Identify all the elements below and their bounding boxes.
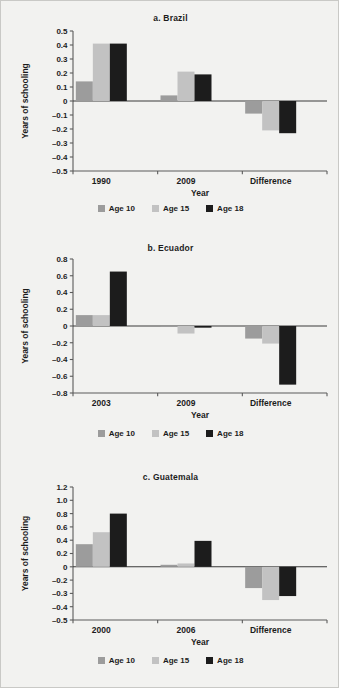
- legend-guatemala: Age 10 Age 15 Age 18: [1, 656, 339, 665]
- svg-text:–0.3: –0.3: [52, 589, 68, 598]
- svg-text:–0.2: –0.2: [52, 576, 68, 585]
- svg-text:–0.2: –0.2: [52, 125, 68, 134]
- svg-text:Years of schooling: Years of schooling: [20, 288, 30, 364]
- svg-text:–0.6: –0.6: [52, 372, 68, 381]
- legend-item-age-10: Age 10: [98, 204, 135, 213]
- legend-label-age-15: Age 15: [163, 656, 189, 665]
- svg-text:Year: Year: [191, 410, 210, 420]
- svg-text:2000: 2000: [92, 625, 111, 635]
- svg-text:Years of schooling: Years of schooling: [20, 63, 30, 139]
- legend-item-age-15: Age 15: [152, 656, 189, 665]
- legend-swatch-age-18: [206, 657, 213, 664]
- svg-text:0.8: 0.8: [56, 510, 68, 519]
- svg-text:0: 0: [63, 563, 68, 572]
- legend-swatch-age-15: [152, 657, 159, 664]
- svg-text:–0.8: –0.8: [52, 389, 68, 398]
- svg-text:0: 0: [63, 322, 68, 331]
- legend-item-age-10: Age 10: [98, 656, 135, 665]
- legend-swatch-age-10: [98, 657, 105, 664]
- legend-label-age-18: Age 18: [217, 429, 243, 438]
- svg-text:0.1: 0.1: [56, 83, 68, 92]
- legend-label-age-10: Age 10: [109, 204, 135, 213]
- svg-text:–0.5: –0.5: [52, 616, 68, 625]
- panel-title-ecuador: b. Ecuador: [1, 243, 339, 253]
- svg-text:0.4: 0.4: [56, 41, 68, 50]
- legend-swatch-age-18: [206, 205, 213, 212]
- svg-text:–0.5: –0.5: [52, 167, 68, 176]
- legend-item-age-18: Age 18: [206, 204, 243, 213]
- svg-text:Years of schooling: Years of schooling: [20, 516, 30, 592]
- svg-text:0.4: 0.4: [56, 288, 68, 297]
- svg-text:0.2: 0.2: [56, 305, 68, 314]
- svg-text:–0.4: –0.4: [52, 603, 68, 612]
- panel-title-guatemala: c. Guatemala: [1, 472, 339, 482]
- legend-label-age-10: Age 10: [109, 656, 135, 665]
- legend-label-age-15: Age 15: [163, 204, 189, 213]
- svg-text:–0.3: –0.3: [52, 139, 68, 148]
- legend-swatch-age-10: [98, 205, 105, 212]
- svg-text:2009: 2009: [177, 398, 196, 408]
- svg-text:Difference: Difference: [250, 176, 292, 186]
- figure-container: a. Brazil 0.50.40.30.20.10–0.1–0.2–0.3–0…: [0, 0, 339, 688]
- legend-label-age-15: Age 15: [163, 429, 189, 438]
- svg-text:0.2: 0.2: [56, 549, 68, 558]
- svg-text:1990: 1990: [92, 176, 111, 186]
- svg-text:0: 0: [63, 97, 68, 106]
- svg-text:1.2: 1.2: [56, 483, 68, 492]
- legend-swatch-age-10: [98, 430, 105, 437]
- svg-text:–0.2: –0.2: [52, 339, 68, 348]
- legend-label-age-10: Age 10: [109, 429, 135, 438]
- svg-text:1.0: 1.0: [56, 496, 68, 505]
- svg-text:0.8: 0.8: [56, 255, 68, 264]
- svg-text:Year: Year: [191, 188, 210, 198]
- chart-panel-ecuador: b. Ecuador 0.80.60.40.20–0.2–0.4–0.6–0.8…: [1, 233, 339, 456]
- legend-item-age-10: Age 10: [98, 429, 135, 438]
- svg-text:–0.4: –0.4: [52, 153, 68, 162]
- svg-text:2009: 2009: [177, 176, 196, 186]
- legend-swatch-age-18: [206, 430, 213, 437]
- svg-text:0.5: 0.5: [56, 27, 68, 36]
- legend-item-age-15: Age 15: [152, 204, 189, 213]
- legend-item-age-18: Age 18: [206, 429, 243, 438]
- svg-text:Difference: Difference: [250, 398, 292, 408]
- svg-text:0.3: 0.3: [56, 55, 68, 64]
- svg-text:2003: 2003: [92, 398, 111, 408]
- plot-area-ecuador: 0.80.60.40.20–0.2–0.4–0.6–0.820032009Dif…: [1, 233, 339, 426]
- svg-text:0.6: 0.6: [56, 523, 68, 532]
- chart-panel-guatemala: c. Guatemala 1.21.00.80.60.40.20–0.2–0.3…: [1, 456, 339, 687]
- svg-text:–0.1: –0.1: [52, 111, 68, 120]
- legend-label-age-18: Age 18: [217, 204, 243, 213]
- legend-ecuador: Age 10 Age 15 Age 18: [1, 429, 339, 438]
- legend-brazil: Age 10 Age 15 Age 18: [1, 204, 339, 213]
- svg-text:–0.4: –0.4: [52, 355, 68, 364]
- svg-text:0.2: 0.2: [56, 69, 68, 78]
- svg-text:Difference: Difference: [250, 625, 292, 635]
- svg-text:0.4: 0.4: [56, 536, 68, 545]
- svg-text:2006: 2006: [177, 625, 196, 635]
- legend-item-age-18: Age 18: [206, 656, 243, 665]
- plot-area-brazil: 0.50.40.30.20.10–0.1–0.2–0.3–0.4–0.51990…: [1, 1, 339, 201]
- legend-swatch-age-15: [152, 205, 159, 212]
- legend-item-age-15: Age 15: [152, 429, 189, 438]
- svg-text:Year: Year: [191, 637, 210, 647]
- panel-title-brazil: a. Brazil: [1, 13, 339, 23]
- chart-panel-brazil: a. Brazil 0.50.40.30.20.10–0.1–0.2–0.3–0…: [1, 1, 339, 233]
- legend-label-age-18: Age 18: [217, 656, 243, 665]
- plot-area-guatemala: 1.21.00.80.60.40.20–0.2–0.3–0.4–0.520002…: [1, 456, 339, 653]
- legend-swatch-age-15: [152, 430, 159, 437]
- svg-text:0.6: 0.6: [56, 272, 68, 281]
